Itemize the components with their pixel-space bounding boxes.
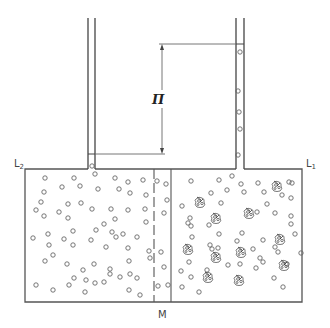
solvent-particle	[230, 174, 234, 178]
osmosis-diagram: Π L2 L1 M	[0, 0, 330, 328]
solvent-particle	[104, 245, 108, 249]
solvent-particle	[92, 262, 96, 266]
solvent-particle	[210, 247, 214, 251]
arrow-down-icon	[160, 148, 164, 154]
solvent-particle	[57, 210, 61, 214]
solvent-particle	[235, 239, 239, 243]
solvent-particle	[47, 243, 51, 247]
solvent-particle	[189, 179, 193, 183]
solvent-particle	[62, 237, 66, 241]
solvent-particle	[239, 182, 243, 186]
solvent-particle	[217, 178, 221, 182]
solvent-particle	[180, 204, 184, 208]
solvent-particle	[110, 230, 114, 234]
level-label-l1: L1	[306, 158, 316, 171]
solvent-particle	[238, 127, 242, 131]
solvent-particle	[143, 207, 147, 211]
solvent-particle	[226, 263, 230, 267]
solvent-particle	[207, 223, 211, 227]
solute-molecule	[244, 208, 254, 219]
solvent-particle	[65, 262, 69, 266]
solvent-particle	[60, 185, 64, 189]
solute-molecule	[234, 275, 244, 286]
solvent-particle	[127, 288, 131, 292]
solvent-particle	[102, 280, 106, 284]
solvent-particle	[156, 284, 160, 288]
vessel-outline	[25, 169, 302, 302]
solvent-particle	[51, 288, 55, 292]
solvent-particle	[225, 188, 229, 192]
solvent-particle	[71, 243, 75, 247]
solvent-particle	[179, 269, 183, 273]
solvent-particle	[93, 172, 97, 176]
solvent-particle	[90, 164, 94, 168]
solvent-particle	[209, 191, 213, 195]
solvent-particle	[135, 276, 139, 280]
solvent-particle	[81, 268, 85, 272]
solute-molecule	[279, 260, 289, 271]
solvent-particle	[78, 184, 82, 188]
pressure-dimension	[95, 44, 236, 154]
solvent-particle	[238, 262, 242, 266]
solvent-particle	[117, 187, 121, 191]
solvent-particle	[72, 276, 76, 280]
solvent-particle	[94, 228, 98, 232]
solvent-particle	[261, 260, 265, 264]
solvent-particle	[71, 229, 75, 233]
solvent-particle	[280, 193, 284, 197]
solvent-particle	[273, 245, 277, 249]
solvent-particle	[83, 290, 87, 294]
solute-molecule	[236, 247, 246, 258]
solvent-particle	[102, 222, 106, 226]
solvent-particle	[109, 207, 113, 211]
solvent-particle	[79, 201, 83, 205]
solvent-particle	[138, 293, 142, 297]
solute-molecule	[203, 272, 213, 283]
solute-molecule	[211, 213, 221, 224]
solvent-particle	[190, 235, 194, 239]
solvent-particle	[189, 224, 193, 228]
solvent-particle	[108, 267, 112, 271]
vessel	[25, 169, 302, 302]
solvent-particle	[108, 272, 112, 276]
solvent-particle	[281, 285, 285, 289]
solvent-particle	[34, 283, 38, 287]
solvent-particle	[141, 178, 145, 182]
solvent-particle	[121, 232, 125, 236]
solvent-particle	[43, 176, 47, 180]
osmotic-pressure-label: Π	[151, 92, 165, 107]
solvent-particle	[46, 232, 50, 236]
solvent-particle	[155, 179, 159, 183]
solvent-particle	[251, 247, 255, 251]
arrow-up-icon	[160, 44, 164, 50]
solvent-particle	[127, 259, 131, 263]
solvent-particle	[289, 222, 293, 226]
membrane-label: M	[158, 309, 167, 320]
solvent-particle	[240, 231, 244, 235]
solvent-particle	[128, 272, 132, 276]
solvent-particle	[114, 235, 118, 239]
solvent-particle	[31, 236, 35, 240]
solvent-particle	[147, 249, 151, 253]
solute-molecule	[183, 244, 193, 255]
solvent-particle	[197, 290, 201, 294]
solvent-particle	[67, 283, 71, 287]
solvent-particle	[126, 180, 130, 184]
solute-molecules	[183, 181, 289, 286]
solvent-particle	[162, 211, 166, 215]
solvent-particle	[165, 198, 169, 202]
solvent-particle	[128, 191, 132, 195]
solute-molecule	[195, 197, 205, 208]
solvent-particle	[238, 50, 242, 54]
solvent-particle	[255, 210, 259, 214]
solvent-particle	[242, 190, 246, 194]
solvent-particle	[262, 190, 266, 194]
solute-molecule	[272, 181, 282, 192]
solvent-particle	[126, 246, 130, 250]
solvent-particle	[265, 202, 269, 206]
solvent-particle	[66, 202, 70, 206]
solvent-particle	[42, 190, 46, 194]
solvent-particle	[34, 208, 38, 212]
solvent-particle	[237, 110, 241, 114]
solvent-particle	[90, 207, 94, 211]
